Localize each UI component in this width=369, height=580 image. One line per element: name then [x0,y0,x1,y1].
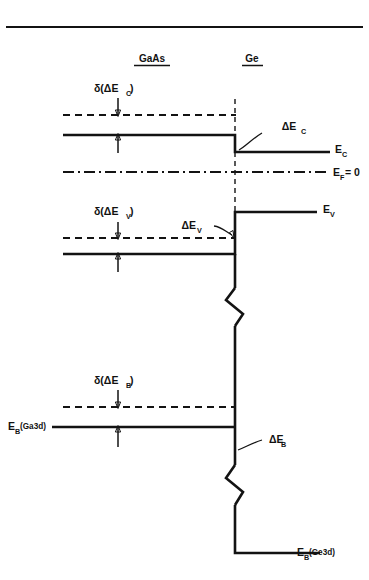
zigzag-break-lower [226,465,243,505]
label-eb-ga3d: E B (Ga3d) [8,420,46,436]
label-delta-ev-sub: V [197,226,202,235]
label-ev: E V [323,203,335,219]
column-heading-ge: Ge [242,53,263,66]
band-diagram-figure: GaAs Ge δ(ΔE C ) ΔE [0,0,369,580]
annotation-delta-delta-eb-main: δ(ΔE [94,374,118,386]
label-delta-eb-leader [238,440,262,450]
label-delta-ec-main: ΔE [282,120,297,132]
label-delta-ev: ΔE V [181,219,234,238]
label-fermi-suffix: = 0 [345,166,360,178]
label-eb-ga3d-suffix: (Ga3d) [20,422,46,431]
label-ec-sub: C [342,150,347,159]
label-eb-ga3d-main: E [8,420,15,432]
measure-arrow-delta-delta-ec [115,98,120,153]
label-fermi-level: E F = 0 [333,166,360,182]
label-ec: E C [335,143,347,159]
core-level-line-ge3d-path [235,505,320,553]
annotation-delta-delta-ec-main: δ(ΔE [94,82,118,94]
label-delta-ev-main: ΔE [181,219,196,231]
zigzag-break-upper [226,288,243,326]
label-delta-ec: ΔE C [239,120,306,150]
label-delta-ec-sub: C [301,127,306,136]
column-heading-gaas: GaAs [134,53,170,66]
label-eb-ge3d: E B (Ge3d) [297,546,335,562]
measure-arrow-delta-delta-ev [115,222,120,272]
conduction-band-edge-path [63,135,330,152]
annotation-delta-delta-eb: δ(ΔE B ) [94,374,134,390]
annotation-delta-delta-ec-close: ) [130,82,134,94]
label-ev-main: E [323,203,330,215]
label-delta-eb: ΔE B [238,433,286,450]
label-eb-ge3d-suffix: (Ge3d) [309,548,335,557]
measure-arrow-delta-delta-eb [115,390,120,447]
band-diagram-canvas: GaAs Ge δ(ΔE C ) ΔE [0,0,369,580]
annotation-delta-delta-ev-main: δ(ΔE [94,205,118,217]
label-delta-ev-leader [214,226,232,235]
label-fermi-main: E [333,166,340,178]
column-heading-gaas-label: GaAs [139,53,166,64]
annotation-delta-delta-eb-close: ) [130,374,134,386]
annotation-delta-delta-ec: δ(ΔE C ) [94,82,134,98]
column-heading-ge-label: Ge [245,53,259,64]
label-ec-main: E [335,143,342,155]
label-delta-ec-leader [239,133,262,150]
label-eb-ge3d-main: E [297,546,304,558]
annotation-delta-delta-ev-close: ) [130,205,134,217]
annotation-delta-delta-ev: δ(ΔE V ) [94,205,134,221]
label-ev-sub: V [330,210,335,219]
label-delta-eb-sub: B [281,440,286,449]
